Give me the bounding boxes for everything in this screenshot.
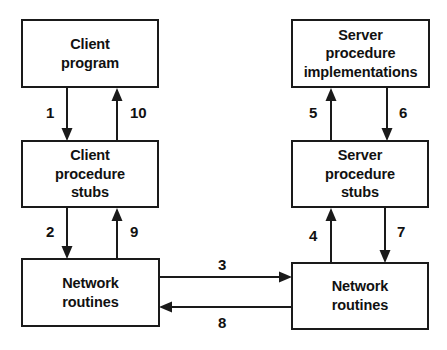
- node-server-network-routines: Network routines: [291, 262, 429, 330]
- edge-label-5: 5: [309, 105, 317, 120]
- edge-label-9: 9: [130, 224, 138, 239]
- node-server-procedure-stubs: Server procedure stubs: [291, 140, 429, 208]
- node-server-procedure-implementations-label: Server procedure implementations: [295, 26, 426, 82]
- edge-arrow-5: [324, 88, 340, 141]
- node-client-program-label: Client program: [25, 35, 155, 72]
- edge-arrow-2: [60, 208, 76, 259]
- node-server-procedure-stubs-label: Server procedure stubs: [295, 146, 425, 202]
- node-client-program: Client program: [21, 19, 159, 88]
- node-server-network-routines-label: Network routines: [295, 277, 425, 314]
- edge-label-7: 7: [397, 224, 405, 239]
- edge-arrow-7: [378, 208, 394, 263]
- edge-arrow-4: [324, 208, 340, 263]
- node-client-procedure-stubs: Client procedure stubs: [21, 140, 159, 208]
- edge-arrow-6: [380, 88, 396, 141]
- edge-label-10: 10: [130, 105, 147, 120]
- edge-arrow-1: [60, 88, 76, 141]
- node-client-procedure-stubs-label: Client procedure stubs: [25, 146, 155, 202]
- edge-label-8: 8: [218, 315, 226, 330]
- rpc-flow-diagram: Client program Client procedure stubs Ne…: [0, 0, 447, 350]
- edge-label-1: 1: [46, 105, 54, 120]
- edge-label-4: 4: [309, 228, 317, 243]
- edge-arrow-10: [110, 88, 126, 141]
- node-server-procedure-implementations: Server procedure implementations: [291, 19, 430, 88]
- node-client-network-routines-label: Network routines: [25, 274, 156, 311]
- edge-label-6: 6: [399, 105, 407, 120]
- edge-label-3: 3: [218, 257, 226, 272]
- node-client-network-routines: Network routines: [21, 258, 160, 327]
- edge-arrow-9: [110, 208, 126, 259]
- edge-label-2: 2: [46, 224, 54, 239]
